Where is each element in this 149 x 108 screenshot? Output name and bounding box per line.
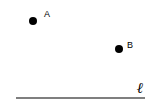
point-b-label: B xyxy=(127,40,133,50)
geometry-diagram: A B ℓ xyxy=(0,0,149,108)
point-a-label: A xyxy=(44,9,50,19)
point-b xyxy=(115,45,123,53)
point-a xyxy=(29,17,37,25)
line-l-label: ℓ xyxy=(137,79,143,97)
